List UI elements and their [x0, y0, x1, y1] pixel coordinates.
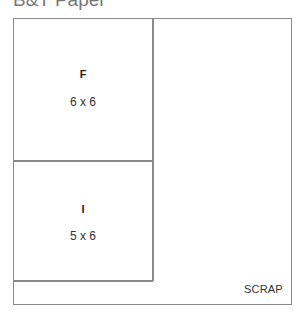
diagram-title: B&T Paper: [13, 0, 106, 9]
piece-f-dimensions: 6 x 6: [13, 96, 153, 108]
horizontal-cut-line-bottom: [13, 280, 153, 282]
scrap-label: SCRAP: [244, 284, 283, 295]
horizontal-cut-line-middle: [13, 160, 153, 162]
piece-f-label: F: [13, 69, 153, 80]
piece-i-dimensions: 5 x 6: [13, 230, 153, 242]
piece-i-label: I: [13, 204, 153, 215]
